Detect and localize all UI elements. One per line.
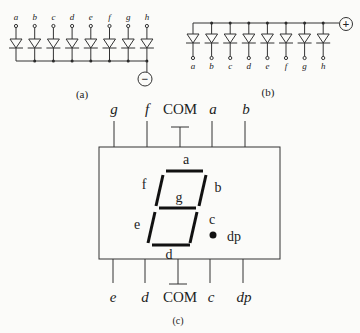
diode-triangle: [317, 34, 329, 43]
segment-f: [156, 175, 163, 206]
pin-label-b-e: e: [265, 61, 269, 71]
diode-triangle: [85, 39, 97, 48]
diode-triangle: [29, 39, 41, 48]
diode-a-d: d: [65, 12, 79, 63]
segment-label-f: f: [142, 177, 147, 192]
diagram-b-common-anode: abcdefgh: [186, 22, 339, 72]
diode-triangle: [261, 34, 273, 43]
caption-b: (b): [262, 86, 275, 99]
diode-triangle: [47, 39, 59, 48]
diode-triangle: [10, 39, 22, 48]
diode-b-f: f: [279, 22, 293, 72]
segment-label-g: g: [176, 190, 183, 205]
pin-label-b-c: c: [228, 61, 232, 71]
pin-label-a-c: c: [51, 12, 55, 22]
pin-terminal: [229, 56, 232, 59]
plus-terminal: +: [340, 17, 353, 31]
diode-triangle: [141, 39, 153, 48]
pin-label-b-b: b: [209, 61, 214, 71]
segment-label-d: d: [166, 247, 173, 262]
top-label-a: a: [209, 101, 217, 117]
pin-label-b-f: f: [285, 61, 289, 71]
pin-label-b-a: a: [191, 61, 196, 71]
segment-label-dp: dp: [227, 229, 241, 244]
bottom-label-d: d: [141, 289, 149, 305]
bottom-label-e: e: [110, 289, 117, 305]
pin-terminal: [14, 24, 17, 27]
diode-b-g: g: [298, 22, 312, 72]
pin-label-a-a: a: [14, 12, 19, 22]
segment-label-a: a: [183, 152, 190, 167]
pin-terminal: [52, 24, 55, 27]
pin-terminal: [145, 24, 148, 27]
pin-label-a-b: b: [32, 12, 37, 22]
diode-triangle: [104, 39, 116, 48]
diode-a-e: e: [84, 12, 98, 63]
caption-c: (c): [172, 315, 183, 327]
diagram-canvas: abcdefgh (a) − abcdefgh (b) + g f COM a …: [0, 0, 360, 333]
diode-b-a: a: [186, 23, 200, 71]
bottom-label-com: COM: [163, 289, 197, 305]
pin-label-a-e: e: [89, 12, 93, 22]
bottom-label-dp: dp: [237, 289, 253, 305]
diode-b-d: d: [242, 22, 256, 72]
diode-b-b: b: [205, 22, 219, 72]
pin-terminal: [247, 56, 250, 59]
diode-b-h: h: [316, 22, 330, 72]
top-label-f: f: [145, 101, 151, 117]
diode-a-b: b: [28, 12, 42, 63]
diode-a-g: g: [121, 12, 135, 63]
pin-terminal: [210, 56, 213, 59]
pin-terminal: [108, 24, 111, 27]
pin-terminal: [284, 56, 287, 59]
seven-segment-display: g f COM a b e d COM c dp a b c d e f g d…: [99, 101, 280, 305]
pin-terminal: [303, 56, 306, 59]
pin-label-a-d: d: [70, 12, 75, 22]
diode-a-c: c: [46, 12, 60, 63]
pin-terminal: [89, 24, 92, 27]
minus-icon: −: [142, 72, 149, 86]
diode-triangle: [122, 39, 134, 48]
diode-a-h: h: [140, 12, 154, 63]
diode-triangle: [206, 34, 218, 43]
diode-b-e: e: [260, 22, 274, 72]
diode-triangle: [299, 34, 311, 43]
pin-terminal: [322, 56, 325, 59]
caption-a: (a): [76, 88, 89, 101]
diode-triangle: [280, 34, 292, 43]
segment-label-e: e: [134, 217, 140, 232]
pin-label-b-h: h: [321, 61, 326, 71]
pin-terminal: [33, 24, 36, 27]
diode-a-f: f: [103, 12, 117, 63]
segment-label-b: b: [215, 180, 222, 195]
segment-label-c: c: [209, 212, 215, 227]
pin-label-b-g: g: [302, 61, 307, 71]
pin-terminal: [71, 24, 74, 27]
diode-triangle: [224, 34, 236, 43]
pin-label-a-g: g: [126, 12, 131, 22]
segment-c: [190, 212, 197, 243]
pin-label-a-f: f: [108, 12, 112, 22]
segment-e: [148, 212, 155, 243]
segment-dp: [210, 232, 217, 239]
pin-label-a-h: h: [145, 12, 150, 22]
diode-triangle: [243, 34, 255, 43]
segment-b: [199, 175, 206, 206]
top-label-g: g: [110, 101, 118, 117]
diagram-a-common-cathode: abcdefgh: [9, 12, 154, 72]
top-label-b: b: [242, 101, 250, 117]
pin-terminal: [127, 24, 130, 27]
bottom-label-c: c: [208, 289, 215, 305]
pin-label-b-d: d: [247, 61, 252, 71]
diode-triangle: [187, 34, 199, 43]
pin-terminal: [191, 56, 194, 59]
plus-icon: +: [343, 17, 350, 31]
diode-triangle: [66, 39, 78, 48]
pin-terminal: [266, 56, 269, 59]
diode-a-a: a: [9, 12, 23, 61]
top-label-com: COM: [163, 101, 197, 117]
diode-b-c: c: [223, 22, 237, 72]
minus-terminal: −: [138, 72, 152, 86]
